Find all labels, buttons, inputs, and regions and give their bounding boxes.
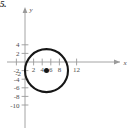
x-tick-label-12: 12: [73, 66, 81, 74]
y-tick-label-2: 2: [16, 50, 20, 58]
coordinate-plane-graph: -2 2 4 6 8 12 4 2 -2 -4 -6 -8 -10 x y: [0, 0, 129, 132]
y-axis-tick-labels: 4 2 -2 -4 -6 -8 -10: [10, 41, 21, 109]
y-tick-label-neg10: -10: [10, 102, 20, 110]
x-axis: [7, 60, 120, 65]
y-tick-label-neg8: -8: [14, 93, 20, 101]
x-axis-label: x: [122, 59, 127, 67]
figure-container: 5.: [0, 0, 129, 132]
x-tick-label-8: 8: [58, 66, 62, 74]
y-tick-label-neg6: -6: [14, 84, 20, 92]
x-tick-label-6: 6: [49, 66, 53, 74]
x-axis-arrow-icon: [114, 60, 120, 65]
x-tick-label-2: 2: [32, 66, 36, 74]
x-tick-label-4: 4: [40, 66, 44, 74]
figure-number-label: 5.: [0, 0, 6, 9]
y-tick-label-4: 4: [16, 41, 20, 49]
y-tick-label-neg4: -4: [14, 76, 20, 84]
y-axis-label: y: [28, 6, 33, 14]
y-axis-arrow-icon: [23, 7, 28, 13]
